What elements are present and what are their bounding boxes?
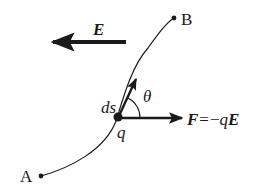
force-q-symbol: q	[220, 110, 229, 129]
angle-theta-arc	[128, 98, 140, 118]
force-equals-sign: =	[199, 110, 209, 129]
charge-q-label: q	[117, 124, 126, 141]
force-f-symbol: F	[187, 110, 198, 129]
diagram-canvas	[0, 0, 271, 195]
point-b-dot	[172, 16, 177, 21]
electric-field-work-diagram: A B E ds θ q F=−qE	[0, 0, 271, 195]
displacement-ds-label: ds	[101, 99, 116, 116]
force-e-symbol: E	[228, 110, 239, 129]
force-equation: F=−qE	[187, 111, 239, 128]
point-b-label: B	[181, 11, 192, 28]
point-a-label: A	[20, 168, 32, 185]
point-a-dot	[39, 174, 44, 179]
field-e-label: E	[93, 21, 104, 38]
angle-theta-label: θ	[143, 88, 151, 105]
displacement-ds-arrow	[118, 79, 136, 118]
force-minus-sign: −	[210, 110, 220, 129]
